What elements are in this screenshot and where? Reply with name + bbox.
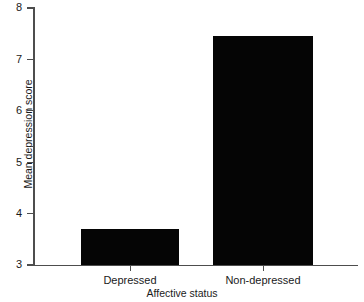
x-tick-non-depressed — [263, 265, 264, 271]
x-tick-label-non-depressed: Non-depressed — [225, 274, 300, 286]
x-tick-label-depressed: Depressed — [103, 274, 156, 286]
y-tick-8 — [27, 7, 33, 8]
y-axis-line — [33, 7, 35, 266]
bar-depressed — [81, 229, 179, 265]
y-tick-5 — [27, 162, 33, 163]
y-tick-label-6: 6 — [2, 105, 22, 116]
bar-non-depressed — [213, 36, 313, 265]
bar-chart-figure: Mean depression score 3 4 5 6 7 8 Depres… — [0, 0, 364, 302]
y-tick-7 — [27, 59, 33, 60]
y-tick-label-4: 4 — [2, 208, 22, 219]
x-axis-line — [33, 265, 358, 267]
y-tick-label-3: 3 — [2, 259, 22, 270]
y-tick-label-5: 5 — [2, 157, 22, 168]
x-tick-depressed — [130, 265, 131, 271]
x-axis-title: Affective status — [0, 287, 364, 299]
y-tick-label-7: 7 — [2, 54, 22, 65]
y-tick-4 — [27, 213, 33, 214]
y-tick-label-8: 8 — [2, 2, 22, 13]
y-tick-6 — [27, 110, 33, 111]
